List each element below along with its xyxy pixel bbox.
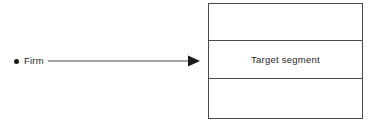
segment-box: Target segment xyxy=(208,3,363,119)
diagram-canvas: Firm Target segment xyxy=(0,0,377,126)
target-segment-label: Target segment xyxy=(251,55,320,65)
segment-row xyxy=(209,79,362,118)
segment-row xyxy=(209,4,362,40)
firm-node: Firm xyxy=(14,53,44,69)
segment-row-target: Target segment xyxy=(209,40,362,79)
connector-arrow xyxy=(48,52,202,70)
arrowhead-icon xyxy=(188,56,200,67)
bullet-point-icon xyxy=(14,59,19,64)
firm-label: Firm xyxy=(24,53,44,69)
